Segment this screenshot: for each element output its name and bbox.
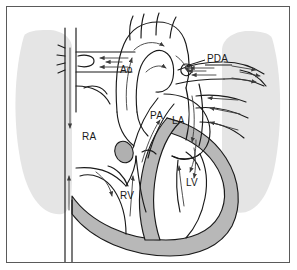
left-lung-shadow xyxy=(15,30,72,214)
label-rv: RV xyxy=(120,190,134,201)
left-ventricle-cavity xyxy=(186,154,206,238)
aorta-arch-inner xyxy=(136,50,173,112)
azygos-loop xyxy=(78,55,94,67)
mitral-region xyxy=(186,152,200,170)
label-pa: PA xyxy=(150,110,163,121)
brachiocephalic-trunk xyxy=(130,16,133,40)
figure-root: Ao PDA PA LA RA RV LV xyxy=(0,0,297,270)
right-atrium-wall-upper xyxy=(76,86,110,104)
label-pda: PDA xyxy=(207,53,228,64)
left-carotid xyxy=(156,13,159,35)
flow-lv-outflow xyxy=(179,166,184,206)
heart-pda-diagram: Ao PDA PA LA RA RV LV xyxy=(0,0,297,270)
flow-arch-over xyxy=(134,43,164,50)
left-atrium-floor xyxy=(172,154,200,159)
brachiocephalic-trunk-2 xyxy=(141,14,144,38)
ductus-arteriosus-lower xyxy=(176,79,224,84)
label-ao: Ao xyxy=(120,64,133,75)
label-lv: LV xyxy=(186,177,198,188)
label-la: LA xyxy=(172,115,185,126)
myocardium xyxy=(72,118,238,256)
tricuspid-region xyxy=(108,166,128,186)
valve-vegetation xyxy=(112,139,136,166)
label-ra: RA xyxy=(82,131,96,142)
aortic-root xyxy=(117,112,134,146)
flow-arch-inner-loop xyxy=(146,66,166,72)
